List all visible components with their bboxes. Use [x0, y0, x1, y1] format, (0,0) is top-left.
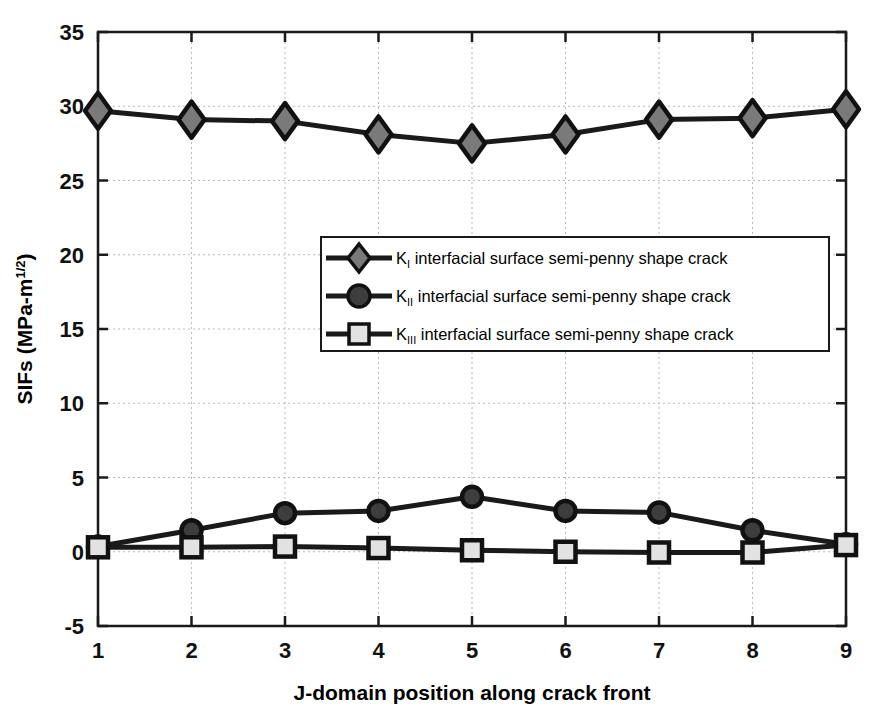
data-point-2 — [182, 537, 202, 557]
legend-subscript-kii: II — [407, 296, 413, 308]
legend-marker-square-icon — [322, 317, 396, 351]
y-tick-label: 5 — [72, 466, 84, 491]
data-point-2 — [743, 542, 763, 562]
y-tick-label: 20 — [60, 243, 84, 268]
legend-marker-circle-icon — [322, 279, 396, 313]
chart-figure: -505101520253035123456789 J-domain posit… — [0, 0, 880, 726]
x-axis-title: J-domain position along crack front — [293, 681, 650, 704]
data-point-1 — [275, 503, 295, 523]
legend-rest-ki: interfacial surface semi-penny shape cra… — [410, 249, 727, 267]
y-tick-label: 15 — [60, 317, 84, 342]
legend-item-kiii: KIII interfacial surface semi-penny shap… — [322, 315, 828, 353]
x-tick-label: 4 — [372, 638, 385, 663]
chart-legend: KI interfacial surface semi-penny shape … — [320, 236, 830, 352]
x-tick-label: 6 — [559, 638, 571, 663]
legend-subscript-kiii: III — [407, 334, 416, 346]
legend-label-kiii: KIII interfacial surface semi-penny shap… — [396, 326, 734, 343]
data-point-1 — [556, 501, 576, 521]
data-point-2 — [88, 537, 108, 557]
data-point-2 — [275, 537, 295, 557]
data-point-2 — [556, 542, 576, 562]
legend-symbol-ki: K — [396, 249, 407, 267]
data-point-2 — [462, 540, 482, 560]
sifs-line-chart: -505101520253035123456789 J-domain posit… — [0, 0, 880, 726]
x-tick-label: 1 — [92, 638, 104, 663]
x-tick-label: 9 — [840, 638, 852, 663]
data-point-1 — [369, 501, 389, 521]
x-tick-label: 3 — [279, 638, 291, 663]
data-point-1 — [743, 520, 763, 540]
legend-rest-kii: interfacial surface semi-penny shape cra… — [413, 287, 730, 305]
data-point-1 — [649, 502, 669, 522]
x-tick-label: 7 — [653, 638, 665, 663]
legend-symbol-kiii: K — [396, 325, 407, 343]
legend-item-kii: KII interfacial surface semi-penny shape… — [322, 277, 828, 315]
y-tick-label: 0 — [72, 540, 84, 565]
y-tick-label: 35 — [60, 20, 84, 45]
x-tick-label: 5 — [466, 638, 478, 663]
legend-symbol-kii: K — [396, 287, 407, 305]
legend-subscript-ki: I — [407, 258, 410, 270]
data-point-2 — [649, 542, 669, 562]
legend-label-kii: KII interfacial surface semi-penny shape… — [396, 288, 730, 305]
y-axis-title: SIFs (MPa-m1/2) — [13, 253, 36, 404]
data-point-2 — [369, 538, 389, 558]
x-tick-label: 2 — [185, 638, 197, 663]
y-tick-label: 30 — [60, 94, 84, 119]
x-tick-label: 8 — [746, 638, 758, 663]
y-tick-label: 10 — [60, 391, 84, 416]
data-point-2 — [836, 535, 856, 555]
data-point-1 — [462, 487, 482, 507]
legend-label-ki: KI interfacial surface semi-penny shape … — [396, 250, 727, 267]
legend-item-ki: KI interfacial surface semi-penny shape … — [322, 239, 828, 277]
y-tick-label: -5 — [64, 614, 84, 639]
legend-rest-kiii: interfacial surface semi-penny shape cra… — [416, 325, 733, 343]
y-tick-label: 25 — [60, 169, 84, 194]
legend-marker-diamond-icon — [322, 241, 396, 275]
